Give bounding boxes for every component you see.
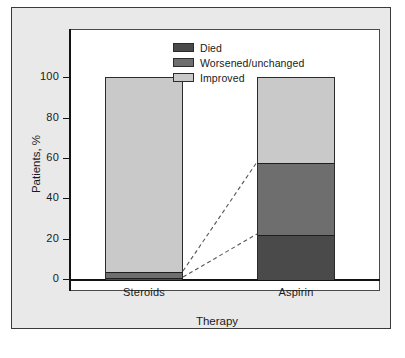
- bar-steroids: [105, 77, 183, 279]
- y-tick-0: [63, 279, 69, 280]
- bar-steroids-segment-improved: [106, 78, 182, 272]
- legend-item-died: Died: [173, 41, 304, 54]
- y-tick-20: [63, 239, 69, 240]
- y-tick-100: [63, 77, 69, 78]
- legend-swatch-died-icon: [173, 43, 194, 52]
- bar-aspirin-divider-worsened-died: [258, 235, 334, 236]
- legend-label-improved: Improved: [200, 72, 245, 84]
- legend-label-worsened: Worsened/unchanged: [200, 57, 304, 69]
- y-tick-40: [63, 198, 69, 199]
- bar-aspirin-segment-improved: [258, 78, 334, 163]
- chart-panel: 100 80 60 40 20 0 Patients, %: [11, 7, 391, 329]
- x-category-label-steroids: Steroids: [89, 286, 199, 298]
- y-tick-label-0: 0: [25, 272, 59, 284]
- bar-steroids-divider-worsened-died: [106, 278, 182, 279]
- bar-aspirin-segment-worsened: [258, 163, 334, 235]
- y-tick-60: [63, 158, 69, 159]
- legend-swatch-worsened-icon: [173, 58, 194, 67]
- legend-label-died: Died: [200, 42, 222, 54]
- legend-item-improved: Improved: [173, 71, 304, 84]
- y-tick-80: [63, 118, 69, 119]
- legend-item-worsened: Worsened/unchanged: [173, 56, 304, 69]
- bar-aspirin: [257, 77, 335, 279]
- y-tick-label-20: 20: [25, 232, 59, 244]
- legend-swatch-improved-icon: [173, 73, 194, 82]
- x-category-label-aspirin: Aspirin: [241, 286, 351, 298]
- bar-aspirin-divider-improved-worsened: [258, 163, 334, 164]
- figure-container: 100 80 60 40 20 0 Patients, %: [0, 0, 405, 358]
- y-tick-label-100: 100: [25, 70, 59, 82]
- bar-steroids-divider-improved-worsened: [106, 272, 182, 273]
- legend: Died Worsened/unchanged Improved: [173, 41, 304, 86]
- x-axis-title: Therapy: [137, 315, 297, 327]
- bar-aspirin-segment-died: [258, 235, 334, 280]
- y-axis-title: Patients, %: [30, 114, 42, 214]
- y-axis-line: [69, 29, 71, 291]
